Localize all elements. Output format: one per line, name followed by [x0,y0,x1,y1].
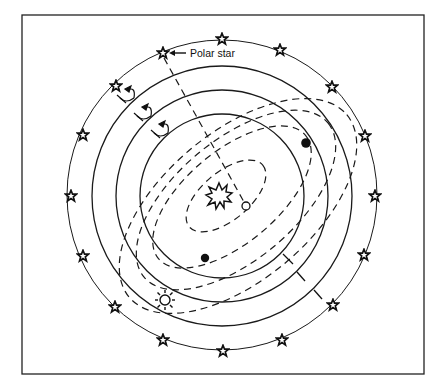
star-icon [358,249,369,260]
polar-star-icon [157,47,168,58]
filled-dot-lower-left [201,254,209,262]
central-burst-icon [206,183,232,209]
rotation-arrow-icon [137,104,151,119]
star-icon [77,129,88,140]
polar-axis-line [164,58,244,202]
open-circle-marker [242,202,250,210]
tick-marks [276,250,322,299]
star-icon [217,345,228,356]
dashed-orbit-4 [82,58,395,354]
rotation-arrow-icon [120,86,134,101]
star-icon [327,299,338,310]
star-icon [157,334,168,345]
star-icon [359,130,370,141]
dashed-orbits [82,58,395,354]
filled-dot-upper-right [301,138,311,148]
star-icon [369,190,380,201]
rotation-arrow-icon [154,121,168,136]
star-icon [77,250,88,261]
sun-icon [155,290,175,310]
star-icon [110,80,121,91]
polar-star-callout: Polar star [169,47,235,59]
polar-star-label: Polar star [190,47,235,59]
celestial-diagram: Polar star [0,0,438,383]
star-icon [216,33,227,44]
